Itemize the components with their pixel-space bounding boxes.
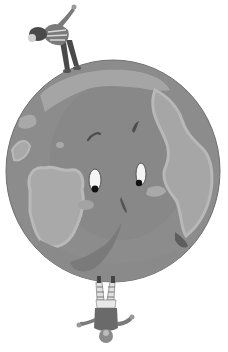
bottom-person [77, 276, 135, 343]
top-person [28, 5, 81, 74]
globe-illustration [0, 0, 228, 352]
left-pupil-icon [92, 186, 99, 193]
earth-globe [6, 60, 220, 290]
right-pupil-icon [136, 180, 142, 186]
